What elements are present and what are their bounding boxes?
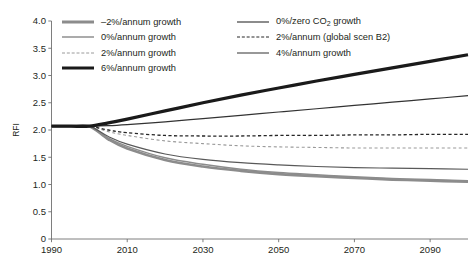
legend-swatch-6pct (62, 63, 94, 73)
svg-text:RFI: RFI (11, 123, 21, 137)
legend-column-left: –2%/annum growth 0%/annum growth 2%/annu… (62, 14, 237, 76)
legend-column-right: 0%/zero CO2 growth 2%/annum (global scen… (237, 14, 402, 61)
legend-swatch-neg2pct (62, 17, 94, 27)
legend-label-2pct: 2%/annum growth (101, 48, 176, 58)
svg-text:2010: 2010 (117, 244, 138, 255)
legend-label-subscript: 2 (327, 20, 331, 27)
chart-container: 00.51.01.52.02.53.03.54.0199020102030205… (0, 0, 474, 268)
legend-item[interactable]: –2%/annum growth (62, 14, 237, 30)
legend-label-4pct: 4%/annum growth (276, 48, 351, 58)
series-line (52, 126, 469, 148)
legend-item[interactable]: 6%/annum growth (62, 61, 237, 77)
legend-label-scen-b2: 2%/annum (global scen B2) (276, 32, 390, 42)
legend-item[interactable]: 2%/annum (global scen B2) (237, 30, 402, 46)
series-line (52, 126, 469, 136)
legend-item[interactable]: 0%/annum growth (62, 30, 237, 46)
svg-text:2.0: 2.0 (33, 124, 46, 135)
legend-item[interactable]: 2%/annum growth (62, 45, 237, 61)
legend-label-neg2pct: –2%/annum growth (101, 17, 181, 27)
svg-text:1.5: 1.5 (33, 152, 46, 163)
svg-text:0.5: 0.5 (33, 206, 46, 217)
y-axis-title: RFI (11, 123, 21, 137)
svg-text:4.0: 4.0 (33, 15, 46, 26)
legend-item[interactable]: 0%/zero CO2 growth (237, 14, 402, 30)
legend-swatch-2pct (62, 48, 94, 58)
legend-label-text-post: growth (331, 16, 362, 26)
legend-label-0pct: 0%/annum growth (101, 32, 176, 42)
svg-text:1990: 1990 (41, 244, 62, 255)
svg-text:2070: 2070 (344, 244, 365, 255)
legend-swatch-4pct (237, 48, 269, 58)
svg-text:1.0: 1.0 (33, 179, 46, 190)
legend-label-zero-co2: 0%/zero CO2 growth (276, 16, 361, 27)
legend-swatch-zero-co2 (237, 17, 269, 27)
legend-swatch-0pct (62, 32, 94, 42)
svg-text:3.0: 3.0 (33, 70, 46, 81)
svg-text:2030: 2030 (192, 244, 213, 255)
svg-text:2090: 2090 (420, 244, 441, 255)
legend-swatch-scen-b2 (237, 32, 269, 42)
legend-label-text: 0%/zero CO (276, 16, 327, 26)
svg-text:2.5: 2.5 (33, 97, 46, 108)
svg-text:2050: 2050 (268, 244, 289, 255)
series-line (52, 125, 469, 169)
series-line (52, 125, 469, 182)
legend-label-6pct: 6%/annum growth (101, 63, 176, 73)
legend-item[interactable]: 4%/annum growth (237, 45, 402, 61)
svg-text:3.5: 3.5 (33, 43, 46, 54)
